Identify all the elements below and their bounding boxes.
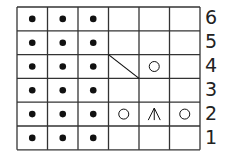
purl-dot-icon	[90, 111, 97, 118]
grid-lines	[17, 7, 200, 150]
yarn-over-circle-icon	[119, 109, 129, 119]
purl-dot-icon	[29, 16, 36, 23]
yarn-over-circle-icon	[180, 109, 190, 119]
central-double-decrease-icon	[148, 108, 160, 120]
row-label-3: 3	[205, 80, 217, 99]
purl-dot-icon	[59, 39, 66, 46]
purl-dot-icon	[90, 87, 97, 94]
row-label-5: 5	[205, 32, 217, 51]
purl-dot-icon	[29, 63, 36, 70]
row-label-6: 6	[205, 8, 217, 27]
purl-dot-icon	[90, 16, 97, 23]
purl-dot-icon	[90, 135, 97, 142]
row-label-2: 2	[205, 104, 217, 123]
purl-dot-icon	[29, 39, 36, 46]
diagonal-slant-icon	[109, 55, 140, 79]
knitting-chart	[0, 0, 232, 163]
purl-dot-icon	[29, 111, 36, 118]
purl-dot-icon	[59, 16, 66, 23]
purl-dot-icon	[90, 39, 97, 46]
purl-dot-icon	[59, 111, 66, 118]
row-label-4: 4	[205, 56, 217, 75]
purl-dot-icon	[90, 63, 97, 70]
purl-dot-icon	[59, 135, 66, 142]
purl-dot-icon	[29, 135, 36, 142]
yarn-over-circle-icon	[149, 62, 159, 72]
purl-dot-icon	[59, 63, 66, 70]
purl-dot-icon	[29, 87, 36, 94]
purl-dot-icon	[59, 87, 66, 94]
row-label-1: 1	[205, 128, 217, 147]
